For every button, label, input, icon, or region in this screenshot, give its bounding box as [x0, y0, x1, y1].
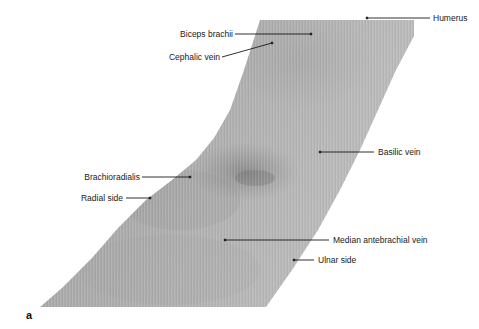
label-humerus: Humerus [433, 13, 467, 23]
label-ulnar-side: Ulnar side [318, 255, 356, 265]
leader-dot-biceps-brachii [310, 33, 312, 35]
leader-dot-humerus [366, 17, 368, 19]
leader-dot-cephalic-vein [271, 42, 273, 44]
label-radial-side: Radial side [81, 193, 123, 203]
leader-dot-ulnar-side [293, 259, 295, 261]
leader-dot-median-antebrachial-vein [224, 239, 226, 241]
label-cephalic-vein: Cephalic vein [169, 52, 220, 62]
anatomy-figure: Humerus Biceps brachii Cephalic vein Bas… [0, 0, 479, 329]
panel-letter: a [26, 309, 32, 321]
leader-dot-brachioradialis [189, 176, 191, 178]
leader-dot-radial-side [149, 197, 151, 199]
label-median-antebrachial-vein: Median antebrachial vein [333, 235, 428, 245]
leader-dot-basilic-vein [319, 151, 321, 153]
arm-illustration [0, 0, 479, 329]
label-basilic-vein: Basilic vein [378, 147, 421, 157]
arm-shape [0, 0, 479, 329]
label-biceps-brachii: Biceps brachii [180, 29, 233, 39]
label-brachioradialis: Brachioradialis [84, 172, 140, 182]
